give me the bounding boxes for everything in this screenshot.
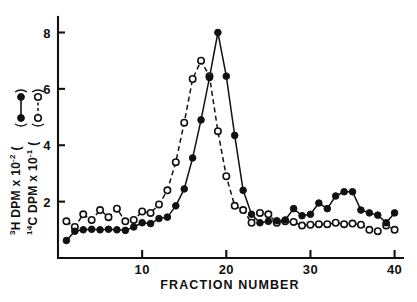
data-point [105,226,112,233]
x-tick-label-20: 20 [219,262,234,277]
data-point [88,217,94,223]
data-point [164,214,171,221]
data-point [316,221,322,227]
data-point [240,187,247,194]
data-point [88,226,95,233]
data-point [181,120,187,126]
data-point [257,210,263,216]
data-point [122,218,128,224]
data-point [374,212,381,219]
data-point [147,220,154,227]
y-axis-label-primary: 3H DPM x 10-2 ( [8,146,23,235]
data-point [265,211,271,217]
data-point [139,219,146,226]
x-tick-label-10: 10 [135,262,150,277]
data-point [97,207,103,213]
x-axis-ticks: 10203040 [135,250,403,277]
data-point [290,205,297,212]
data-point [130,224,137,231]
data-point [349,220,355,226]
x-axis-title: FRACTION NUMBER [160,278,299,292]
data-point [265,218,272,225]
data-point [114,227,121,234]
data-point [324,205,331,212]
data-point [358,222,364,228]
data-point [139,208,145,214]
data-point [391,227,397,233]
y-axis-ticks: 2468 [43,26,65,210]
data-point [189,76,195,82]
data-point [215,128,221,134]
data-point [63,218,69,224]
data-point [299,222,305,228]
data-point [248,220,254,226]
chart-screenshot: 3H DPM x 10-2 ( 14C DPM x 10-1 ( 2468 [0,0,417,302]
y-axis-labels: 3H DPM x 10-2 ( 14C DPM x 10-1 ( [8,90,44,235]
data-point [240,207,246,213]
data-point [147,210,153,216]
data-point [248,211,255,218]
data-point [232,203,238,209]
data-point [80,227,87,234]
data-point [206,74,213,81]
data-point [114,205,120,211]
data-point [391,210,398,217]
y-tick-label-2: 2 [43,195,51,210]
data-point [366,227,372,233]
data-point [290,219,296,225]
x-tick-label-40: 40 [387,262,402,277]
data-point [375,228,381,234]
data-point [215,29,222,36]
data-point [349,188,356,195]
series-markers-3h [63,29,398,244]
series-markers-14c [63,57,398,234]
data-point [383,219,390,226]
elution-profile-chart: 3H DPM x 10-2 ( 14C DPM x 10-1 ( 2468 [0,0,417,302]
data-point [307,211,314,218]
data-point [198,117,205,124]
data-point [231,132,238,139]
data-point [332,193,339,200]
y-tick-label-4: 4 [43,138,51,153]
data-point [156,215,163,222]
x-tick-label-30: 30 [303,262,318,277]
data-point [131,217,137,223]
legend-symbol-filled [15,90,27,126]
data-point [273,217,280,224]
y-axis-label-secondary: 14C DPM x 10-1 ( [25,141,40,235]
data-point [358,207,365,214]
y-tick-label-6: 6 [43,82,51,97]
data-point [80,211,86,217]
data-point [72,228,79,235]
data-point [282,217,289,224]
data-point [223,73,230,80]
data-point [189,155,196,162]
data-point [299,212,306,219]
data-point [122,227,129,234]
y-tick-label-8: 8 [43,26,51,41]
data-point [341,221,347,227]
data-point [156,201,162,207]
data-point [257,219,264,226]
data-point [307,222,313,228]
data-point [198,57,204,63]
data-point [97,227,104,234]
legend-symbol-open [32,90,44,126]
data-point [223,173,229,179]
data-point [181,186,188,193]
data-point [316,200,323,207]
data-point [332,220,338,226]
data-point [63,237,70,244]
data-point [173,159,179,165]
data-point [173,203,180,210]
data-point [366,210,373,217]
data-point [105,214,111,220]
data-point [341,188,348,195]
data-point [164,187,170,193]
data-point [324,221,330,227]
